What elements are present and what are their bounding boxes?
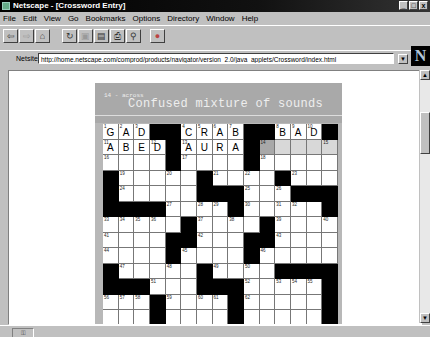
- crossword-cell[interactable]: U: [197, 140, 213, 156]
- crossword-cell[interactable]: 47: [119, 264, 135, 280]
- crossword-cell[interactable]: 21: [213, 171, 229, 187]
- crossword-cell[interactable]: [307, 171, 323, 187]
- crossword-cell[interactable]: 2A: [119, 124, 135, 140]
- crossword-cell[interactable]: 16: [103, 155, 119, 171]
- menu-bookmarks[interactable]: Bookmarks: [86, 13, 126, 25]
- crossword-cell[interactable]: B: [119, 140, 135, 156]
- crossword-cell[interactable]: [307, 217, 323, 233]
- back-button[interactable]: ⇦: [3, 29, 18, 43]
- crossword-cell[interactable]: [275, 248, 291, 264]
- crossword-cell[interactable]: 55: [307, 279, 323, 295]
- crossword-cell[interactable]: [260, 171, 276, 187]
- crossword-cell[interactable]: [134, 155, 150, 171]
- crossword-cell[interactable]: [260, 202, 276, 218]
- crossword-cell[interactable]: 23: [291, 171, 307, 187]
- crossword-cell[interactable]: 14: [260, 140, 276, 156]
- crossword-cell[interactable]: [150, 233, 166, 249]
- stop-button[interactable]: ●: [150, 29, 165, 43]
- reload-button[interactable]: ↻: [62, 29, 77, 43]
- crossword-cell[interactable]: [119, 233, 135, 249]
- crossword-cell[interactable]: 11A: [103, 140, 119, 156]
- maximize-button[interactable]: □: [409, 1, 418, 10]
- crossword-cell[interactable]: [307, 248, 323, 264]
- crossword-cell[interactable]: 10D: [307, 124, 323, 140]
- crossword-cell[interactable]: 51: [150, 279, 166, 295]
- crossword-cell[interactable]: [166, 279, 182, 295]
- crossword-cell[interactable]: [307, 310, 323, 325]
- crossword-cell[interactable]: [166, 217, 182, 233]
- crossword-cell[interactable]: [134, 248, 150, 264]
- crossword-cell[interactable]: 48: [166, 264, 182, 280]
- crossword-cell[interactable]: 40: [322, 217, 338, 233]
- crossword-cell[interactable]: 3D: [134, 124, 150, 140]
- crossword-cell[interactable]: 28: [197, 202, 213, 218]
- crossword-cell[interactable]: 33: [103, 217, 119, 233]
- crossword-cell[interactable]: [307, 295, 323, 311]
- crossword-cell[interactable]: [291, 140, 307, 156]
- crossword-cell[interactable]: [291, 248, 307, 264]
- crossword-cell[interactable]: [150, 155, 166, 171]
- crossword-cell[interactable]: [307, 155, 323, 171]
- crossword-cell[interactable]: [197, 310, 213, 325]
- forward-button[interactable]: ⇨: [19, 29, 34, 43]
- crossword-cell[interactable]: [275, 155, 291, 171]
- crossword-cell[interactable]: [291, 155, 307, 171]
- find-button[interactable]: ⚲: [126, 29, 141, 43]
- crossword-cell[interactable]: 5R: [197, 124, 213, 140]
- crossword-cell[interactable]: [166, 310, 182, 325]
- crossword-cell[interactable]: [213, 310, 229, 325]
- crossword-cell[interactable]: [134, 186, 150, 202]
- crossword-cell[interactable]: [307, 233, 323, 249]
- crossword-cell[interactable]: 17: [181, 155, 197, 171]
- crossword-cell[interactable]: 31: [275, 202, 291, 218]
- crossword-cell[interactable]: [150, 248, 166, 264]
- crossword-cell[interactable]: 56: [103, 295, 119, 311]
- print-button[interactable]: ⎙: [110, 29, 125, 43]
- crossword-cell[interactable]: 43: [275, 233, 291, 249]
- crossword-cell[interactable]: [181, 310, 197, 325]
- crossword-cell[interactable]: [260, 310, 276, 325]
- crossword-cell[interactable]: A: [228, 140, 244, 156]
- crossword-cell[interactable]: [260, 279, 276, 295]
- menu-edit[interactable]: Edit: [23, 13, 37, 25]
- crossword-cell[interactable]: [275, 310, 291, 325]
- crossword-cell[interactable]: [103, 310, 119, 325]
- crossword-cell[interactable]: 58: [134, 295, 150, 311]
- crossword-cell[interactable]: 1G: [103, 124, 119, 140]
- crossword-cell[interactable]: [322, 155, 338, 171]
- crossword-cell[interactable]: 60: [197, 295, 213, 311]
- crossword-cell[interactable]: [213, 233, 229, 249]
- crossword-cell[interactable]: [275, 140, 291, 156]
- scroll-thumb[interactable]: [420, 112, 430, 154]
- crossword-cell[interactable]: 38: [228, 217, 244, 233]
- crossword-cell[interactable]: [119, 155, 135, 171]
- crossword-cell[interactable]: [260, 264, 276, 280]
- close-button[interactable]: x: [419, 1, 428, 10]
- images-button[interactable]: ▣: [78, 29, 93, 43]
- crossword-cell[interactable]: [228, 264, 244, 280]
- crossword-cell[interactable]: [181, 264, 197, 280]
- crossword-cell[interactable]: 62: [244, 295, 260, 311]
- crossword-cell[interactable]: [197, 248, 213, 264]
- menu-window[interactable]: Window: [206, 13, 234, 25]
- crossword-cell[interactable]: [322, 233, 338, 249]
- crossword-cell[interactable]: [228, 171, 244, 187]
- crossword-cell[interactable]: 50: [244, 264, 260, 280]
- crossword-cell[interactable]: [213, 248, 229, 264]
- menu-file[interactable]: File: [3, 13, 16, 25]
- menu-directory[interactable]: Directory: [167, 13, 199, 25]
- crossword-cell[interactable]: [134, 310, 150, 325]
- url-input[interactable]: http://home.netscape.com/comprod/product…: [38, 53, 394, 64]
- crossword-cell[interactable]: [260, 186, 276, 202]
- crossword-cell[interactable]: 18: [260, 155, 276, 171]
- crossword-cell[interactable]: 52: [244, 279, 260, 295]
- crossword-cell[interactable]: [181, 279, 197, 295]
- crossword-cell[interactable]: [228, 155, 244, 171]
- crossword-cell[interactable]: 27: [166, 202, 182, 218]
- crossword-cell[interactable]: [244, 310, 260, 325]
- crossword-cell[interactable]: [181, 295, 197, 311]
- crossword-cell[interactable]: 42: [197, 233, 213, 249]
- crossword-cell[interactable]: 46: [260, 248, 276, 264]
- menu-help[interactable]: Help: [242, 13, 258, 25]
- crossword-cell[interactable]: [213, 217, 229, 233]
